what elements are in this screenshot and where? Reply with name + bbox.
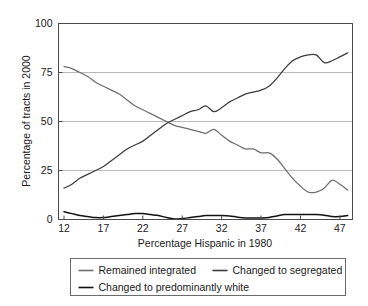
chart-legend: Remained integratedChanged to segregated… [71, 259, 346, 296]
legend-label-1[interactable]: Changed to segregated [233, 264, 343, 276]
x-tick-label-37: 37 [255, 222, 267, 234]
gridlines-group [59, 73, 353, 171]
x-axis-title: Percentage Hispanic in 1980 [138, 237, 272, 249]
y-tick-label-75: 75 [41, 66, 53, 78]
x-tick-label-12: 12 [58, 222, 70, 234]
line-chart: 1217222732374247 0255075100 Percentage H… [0, 0, 368, 306]
series-group [64, 53, 348, 219]
x-tick-label-27: 27 [176, 222, 188, 234]
series-line-0 [64, 67, 348, 193]
series-line-2 [64, 212, 348, 219]
chart-figure: 1217222732374247 0255075100 Percentage H… [0, 0, 368, 306]
series-line-1 [64, 53, 348, 188]
y-tick-label-25: 25 [41, 164, 53, 176]
y-tick-label-50: 50 [41, 115, 53, 127]
x-tick-label-17: 17 [98, 222, 110, 234]
y-tick-label-0: 0 [47, 213, 53, 225]
x-tick-label-22: 22 [137, 222, 149, 234]
y-axis-title: Percentage of tracts in 2000 [20, 55, 32, 186]
x-tick-label-42: 42 [295, 222, 307, 234]
x-tick-label-32: 32 [216, 222, 228, 234]
legend-label-2[interactable]: Changed to predominantly white [99, 281, 250, 293]
y-tick-label-100: 100 [35, 17, 53, 29]
legend-label-0[interactable]: Remained integrated [99, 264, 197, 276]
x-tick-label-47: 47 [334, 222, 346, 234]
